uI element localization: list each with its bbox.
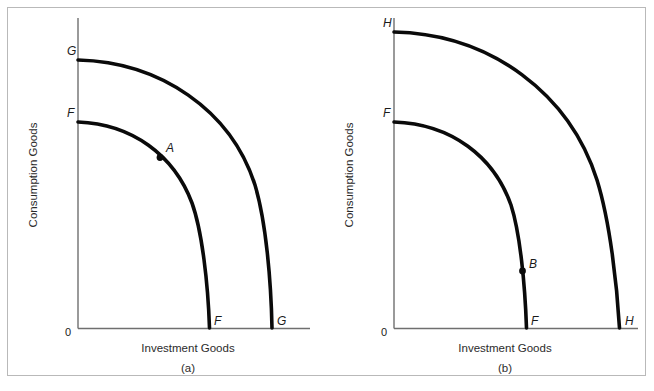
panel-b-curve-hh [394, 32, 620, 328]
panel-a-x-axis-title: Investment Goods [141, 342, 235, 354]
panel-a-ff-top-label: F [67, 106, 75, 120]
panel-b-hh-bottom-label: H [625, 314, 634, 328]
panel-a: A G F F G 0 Investment Goods Consumption… [27, 18, 310, 374]
panel-b-hh-top-label: H [383, 16, 392, 30]
panel-b-ff-top-label: F [383, 106, 391, 120]
panel-a-y-axis-title: Consumption Goods [27, 122, 39, 227]
panel-b-caption: (b) [498, 362, 512, 374]
panel-a-curve-gg [78, 60, 272, 328]
panel-b-point-b-label: B [529, 257, 537, 271]
figure-root: A G F F G 0 Investment Goods Consumption… [0, 0, 654, 391]
ppf-diagram: A G F F G 0 Investment Goods Consumption… [0, 0, 654, 391]
panel-a-caption: (a) [181, 362, 195, 374]
panel-b: B H F F H 0 Investment Goods Consumption… [343, 16, 638, 374]
panel-a-ff-bottom-label: F [214, 314, 222, 328]
panel-b-ff-bottom-label: F [531, 314, 539, 328]
panel-a-point-a-label: A [165, 141, 174, 155]
panel-a-gg-top-label: G [67, 44, 76, 58]
panel-b-curve-ff [394, 122, 527, 328]
panel-a-origin-label: 0 [65, 326, 71, 338]
panel-b-point-b-dot [519, 268, 526, 275]
panel-a-point-a-dot [157, 154, 164, 161]
panel-a-gg-bottom-label: G [277, 314, 286, 328]
panel-b-y-axis-title: Consumption Goods [343, 122, 355, 227]
panel-a-curve-ff [78, 122, 210, 328]
panel-b-origin-label: 0 [381, 326, 387, 338]
panel-b-x-axis-title: Investment Goods [458, 342, 552, 354]
